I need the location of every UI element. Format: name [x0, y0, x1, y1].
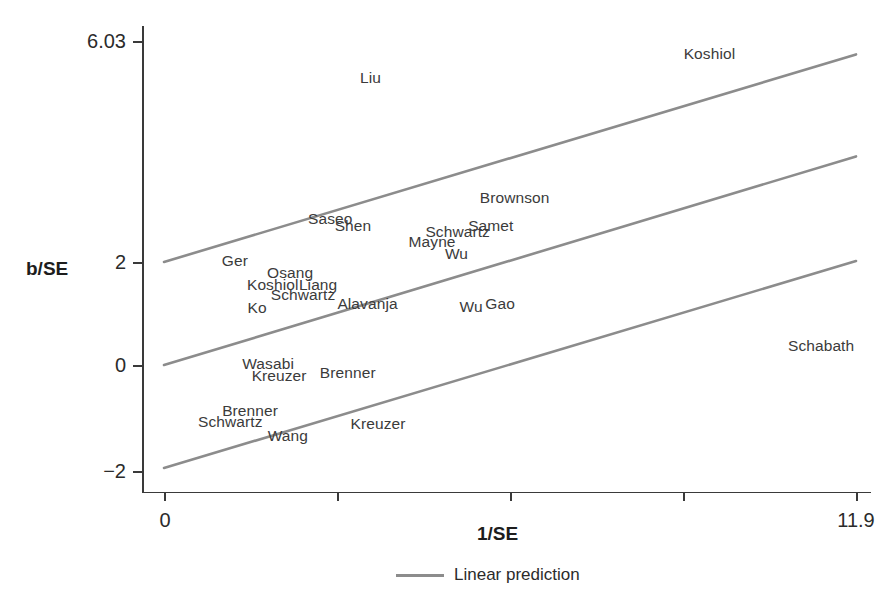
- study-label: Ko: [247, 299, 266, 317]
- galbraith-plot-figure: b/SE 1/SE 6.03 2 0 −2 0 11.9 LiuKoshiolB…: [0, 0, 896, 613]
- x-tick-mark-minor-1: [337, 492, 339, 501]
- legend-label-linear-prediction: Linear prediction: [454, 565, 580, 585]
- x-tick-mark-119: [856, 492, 858, 501]
- study-label: Alavanja: [337, 295, 397, 313]
- y-tick-label-2: 2: [64, 251, 126, 274]
- study-label: Wu: [445, 245, 468, 263]
- y-axis-line: [142, 26, 144, 493]
- study-label: Ger: [222, 252, 248, 270]
- y-tick-mark-603: [133, 41, 142, 43]
- y-tick-label-0: 0: [64, 354, 126, 377]
- study-label: Kreuzer: [350, 415, 405, 433]
- y-tick-mark-2: [133, 262, 142, 264]
- study-label: Kreuzer: [252, 367, 307, 385]
- y-tick-label-neg2: −2: [60, 460, 126, 483]
- x-tick-label-0: 0: [150, 509, 180, 532]
- legend-line-swatch: [396, 574, 444, 577]
- study-label: Koshiol: [684, 45, 736, 63]
- study-label: Schwartz: [198, 413, 263, 431]
- study-label: Shen: [335, 217, 372, 235]
- x-axis-title: 1/SE: [477, 523, 518, 545]
- y-tick-label-603: 6.03: [64, 30, 126, 53]
- x-tick-mark-0: [164, 492, 166, 501]
- legend: Linear prediction: [396, 565, 580, 585]
- study-label: Schabath: [788, 337, 854, 355]
- y-tick-mark-neg2: [133, 471, 142, 473]
- study-label: Schwartz: [271, 286, 336, 304]
- x-tick-label-119: 11.9: [820, 509, 892, 532]
- study-label: Wu: [459, 298, 482, 316]
- x-tick-mark-minor-3: [683, 492, 685, 501]
- study-label: Gao: [485, 295, 515, 313]
- study-label: Wang: [268, 427, 308, 445]
- study-label: Brenner: [320, 364, 376, 382]
- x-axis-line: [142, 492, 871, 494]
- linear-prediction-lines: [0, 0, 896, 613]
- plot-area: b/SE 1/SE 6.03 2 0 −2 0 11.9 LiuKoshiolB…: [0, 0, 896, 613]
- y-axis-title: b/SE: [26, 258, 68, 280]
- study-label: Brownson: [480, 189, 550, 207]
- x-tick-mark-minor-2: [510, 492, 512, 501]
- study-label: Liu: [360, 69, 381, 87]
- y-tick-mark-0: [133, 365, 142, 367]
